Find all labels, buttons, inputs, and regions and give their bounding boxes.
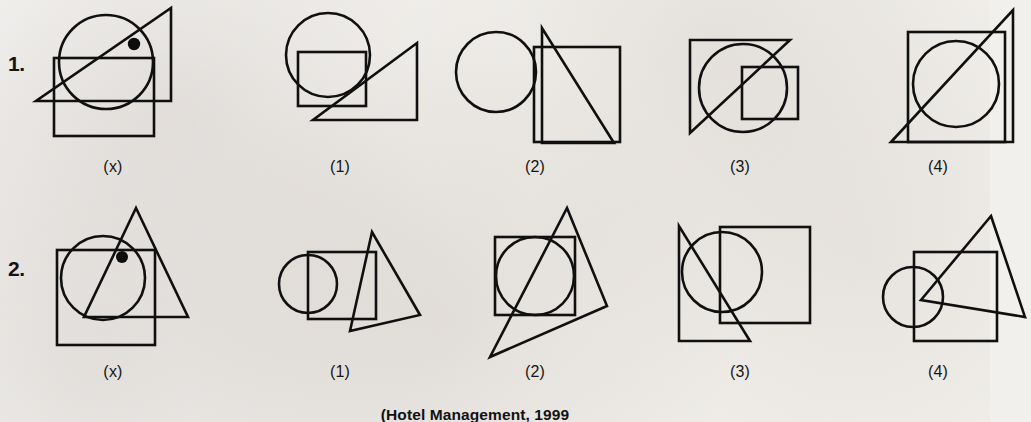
figure-cell-1-2[interactable]: (2) <box>440 0 630 196</box>
figure-art-2-x <box>18 205 208 365</box>
figure-art-2-2 <box>440 205 630 365</box>
figure-cell-2-1[interactable]: (1) <box>245 205 435 401</box>
figure-label-1-4: (4) <box>843 158 1031 176</box>
figure-label-1-3: (3) <box>645 158 835 176</box>
figure-cell-1-x[interactable]: (x) <box>18 0 208 196</box>
figure-art-2-4 <box>843 205 1031 365</box>
figure-art-2-3 <box>645 205 835 365</box>
figure-label-1-1: (1) <box>245 158 435 176</box>
figure-cell-2-3[interactable]: (3) <box>645 205 835 401</box>
source-credit: (Hotel Management, 1999 <box>0 404 990 422</box>
figure-label-2-x: (x) <box>18 363 208 381</box>
figure-label-2-4: (4) <box>843 363 1031 381</box>
figure-art-1-1 <box>245 0 435 160</box>
figure-cell-2-x[interactable]: (x) <box>18 205 208 401</box>
figure-cell-1-4[interactable]: (4) <box>843 0 1031 196</box>
marker-dot <box>116 251 128 263</box>
figure-art-1-4 <box>843 0 1031 160</box>
figure-label-2-1: (1) <box>245 363 435 381</box>
figure-art-2-1 <box>245 205 435 365</box>
figure-art-1-x <box>18 0 208 160</box>
puzzle-row-1: 1. (x) <box>0 0 990 196</box>
figure-label-1-2: (2) <box>440 158 630 176</box>
figure-label-2-3: (3) <box>645 363 835 381</box>
figure-cell-1-3[interactable]: (3) <box>645 0 835 196</box>
figure-cell-1-1[interactable]: (1) <box>245 0 435 196</box>
figure-label-1-x: (x) <box>18 158 208 176</box>
figure-art-1-3 <box>645 0 835 160</box>
puzzle-row-2: 2. (x) (1) <box>0 205 990 401</box>
marker-dot <box>128 38 140 50</box>
figure-label-2-2: (2) <box>440 363 630 381</box>
figure-art-1-2 <box>440 0 630 160</box>
figure-cell-2-4[interactable]: (4) <box>843 205 1031 401</box>
figure-cell-2-2[interactable]: (2) <box>440 205 630 401</box>
